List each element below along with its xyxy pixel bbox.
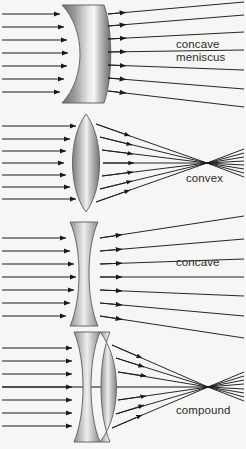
lens-concave	[70, 222, 98, 326]
incoming-rays-meniscus	[2, 14, 68, 92]
lens-convex	[73, 114, 100, 212]
panel-concave	[2, 216, 244, 338]
outgoing-ray-arrows-concave	[100, 235, 122, 320]
lens-concave-meniscus	[62, 5, 111, 103]
label-compound: compound	[176, 404, 231, 417]
converging-ray-arrows-convex	[96, 124, 134, 202]
label-concave: concave	[176, 256, 220, 269]
label-concave-meniscus: concave meniscus	[176, 38, 225, 64]
optics-lens-diagram: concave meniscus convex concave compound	[0, 0, 246, 449]
panel-convex	[2, 114, 244, 212]
incoming-rays-convex	[2, 126, 76, 199]
post-focus-rays-compound	[208, 372, 244, 401]
lens-ray-diagram-canvas	[0, 0, 246, 449]
label-convex: convex	[186, 172, 223, 185]
lens-compound-convex-element	[100, 332, 117, 442]
incoming-rays-concave	[2, 238, 76, 316]
panel-compound	[2, 332, 244, 442]
